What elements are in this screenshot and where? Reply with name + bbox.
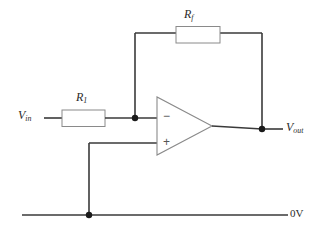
opamp-noninverting-terminal-label: + [163,136,170,148]
input-voltage-label-subscript: in [25,114,31,123]
feedback-resistor-body [176,27,220,44]
output-voltage-label: Vout [286,121,303,135]
feedback-resistor-label: Rf [184,8,194,22]
ground-rail-label: 0V [290,208,303,219]
input-voltage-label: Vin [18,109,32,123]
output-voltage-label-subscript: out [293,126,303,135]
opamp-inverting-terminal-label: − [163,110,170,122]
wire-opamp-output [212,126,262,129]
feedback-resistor-label-subscript: f [191,13,193,22]
junction-dot-output-node [259,126,265,132]
input-resistor-body [62,110,105,127]
junction-dot-inverting-node [132,115,138,121]
input-resistor-label-subscript: 1 [83,96,87,105]
junction-dot-ground-node [86,212,92,218]
circuit-diagram-canvas: Rf R1 Vin Vout 0V − + [0,0,327,239]
input-resistor-label: R1 [76,91,87,105]
